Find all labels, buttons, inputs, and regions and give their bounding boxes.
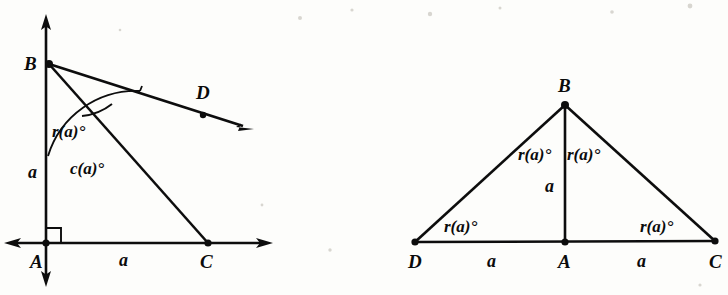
point-label-A-left: A bbox=[29, 251, 43, 272]
vertex-dot-A-right bbox=[561, 238, 568, 245]
angle-arc-DBA-tick bbox=[140, 86, 142, 91]
length-label-AB-left: a bbox=[28, 162, 37, 182]
point-label-B-left: B bbox=[23, 53, 37, 74]
point-label-A-right: A bbox=[557, 251, 571, 272]
point-label-D-right: D bbox=[407, 251, 422, 272]
length-label-AC-left: a bbox=[119, 250, 128, 270]
vertex-dot-B bbox=[45, 60, 53, 68]
point-label-B-right: B bbox=[557, 75, 571, 96]
angle-label-CBA-left: c(a)° bbox=[70, 159, 104, 178]
vertex-dot-D-right bbox=[411, 238, 418, 245]
vertex-dot-C bbox=[204, 239, 211, 246]
vertex-dot-B-right bbox=[561, 101, 569, 109]
vertex-dot-D bbox=[200, 112, 206, 118]
geometry-figure-root: B A C D a a r(a)° c(a)° bbox=[0, 0, 728, 295]
angle-label-ABC-right: r(a)° bbox=[567, 145, 600, 164]
length-label-AC-right: a bbox=[637, 251, 646, 271]
figure-canvas: B A C D a a r(a)° c(a)° bbox=[0, 0, 728, 295]
point-label-C-right: C bbox=[709, 251, 722, 272]
angle-label-BCA-right: r(a)° bbox=[640, 217, 673, 236]
length-label-BA-right: a bbox=[545, 176, 554, 196]
length-label-DA-right: a bbox=[487, 251, 496, 271]
left-panel-group: B A C D a a r(a)° c(a)° bbox=[4, 14, 273, 287]
angle-label-DBA-left: r(a)° bbox=[52, 122, 85, 141]
segment-BD-line bbox=[415, 105, 565, 242]
point-label-C-left: C bbox=[200, 251, 213, 272]
angle-label-BDA-right: r(a)° bbox=[444, 217, 477, 236]
right-panel-group: B D A C a a a r(a)° r(a)° r(a)° r(a)° bbox=[407, 75, 722, 272]
point-label-D-left: D bbox=[195, 82, 210, 103]
angle-label-DBA-right: r(a)° bbox=[518, 145, 551, 164]
vertex-dot-A bbox=[42, 239, 49, 246]
vertex-dot-C-right bbox=[711, 237, 718, 244]
